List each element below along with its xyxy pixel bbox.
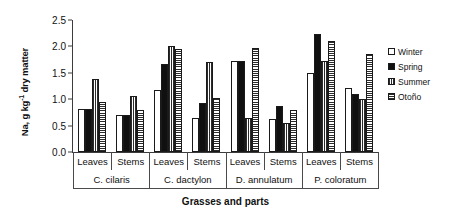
- y-axis-tick-mark: [68, 72, 72, 73]
- plot-area: 0.00.51.01.52.02.5: [72, 20, 378, 152]
- legend-item-label: Summer: [398, 77, 430, 87]
- bar: [231, 61, 238, 152]
- bar: [192, 118, 199, 152]
- bar: [199, 103, 206, 152]
- legend-item-label: Otoño: [398, 92, 421, 102]
- bar: [352, 94, 359, 152]
- x-axis-parts-band: LeavesStemsLeavesStemsLeavesStemsLeavesS…: [73, 152, 378, 170]
- bar-group: [187, 20, 225, 152]
- bar: [307, 73, 314, 152]
- bar: [314, 34, 321, 152]
- legend-item[interactable]: Summer: [388, 74, 460, 89]
- bar: [276, 106, 283, 152]
- bar: [283, 123, 290, 152]
- x-axis-part-label: Leaves: [226, 152, 265, 170]
- y-axis-label-exponent: -1: [18, 95, 25, 101]
- bar: [206, 62, 213, 152]
- bar: [92, 79, 99, 152]
- chart-legend: WinterSpringSummerOtoño: [388, 44, 460, 104]
- bar: [116, 115, 123, 152]
- bar: [213, 98, 220, 152]
- x-axis-part-label: Leaves: [302, 152, 341, 170]
- bar: [161, 64, 168, 152]
- bar-group: [73, 20, 111, 152]
- legend-swatch-icon: [388, 93, 395, 100]
- bar: [238, 61, 245, 152]
- bar: [366, 54, 373, 152]
- x-axis-label: Grasses and parts: [73, 196, 378, 207]
- bar: [99, 102, 106, 152]
- bar: [359, 99, 366, 152]
- bar: [290, 110, 297, 152]
- bar: [137, 110, 144, 152]
- y-axis-tick-mark: [68, 125, 72, 126]
- bar: [328, 41, 335, 152]
- x-axis-species-band: C. cilarisC. dactylonD. annulatumP. colo…: [73, 170, 378, 189]
- x-axis-species-label: C. cilaris: [73, 170, 150, 189]
- x-axis-species-label: D. annulatum: [226, 170, 303, 189]
- bar-group: [149, 20, 187, 152]
- legend-item[interactable]: Spring: [388, 59, 460, 74]
- bar: [168, 46, 175, 152]
- y-axis-tick-label: 2.0: [26, 41, 72, 52]
- bar: [245, 118, 252, 152]
- y-axis-tick-label: 2.5: [26, 15, 72, 26]
- bar: [252, 48, 259, 152]
- y-axis-tick-label: 1.5: [26, 67, 72, 78]
- bar-chart-figure: Na, g kg-1 dry matter 0.00.51.01.52.02.5…: [0, 0, 462, 220]
- bar-group: [111, 20, 149, 152]
- bar: [345, 88, 352, 152]
- y-axis-tick-mark: [68, 46, 72, 47]
- bar: [175, 49, 182, 152]
- bar-group: [264, 20, 302, 152]
- x-axis-species-label: P. coloratum: [302, 170, 379, 189]
- y-axis-tick-mark: [68, 152, 72, 153]
- y-axis-tick-mark: [68, 99, 72, 100]
- bar-group: [302, 20, 340, 152]
- y-axis-tick-mark: [68, 20, 72, 21]
- bar: [269, 119, 276, 152]
- bar: [85, 109, 92, 152]
- legend-swatch-icon: [388, 48, 395, 55]
- bar-groups: [73, 20, 378, 152]
- legend-item[interactable]: Otoño: [388, 89, 460, 104]
- x-axis-part-label: Stems: [111, 152, 150, 170]
- x-axis-part-label: Leaves: [149, 152, 188, 170]
- bar-group: [226, 20, 264, 152]
- bar: [130, 96, 137, 152]
- bar: [78, 109, 85, 152]
- legend-item-label: Winter: [398, 47, 423, 57]
- y-axis-tick-label: 0.0: [26, 147, 72, 158]
- x-axis-part-label: Leaves: [73, 152, 112, 170]
- x-axis-species-label: C. dactylon: [149, 170, 226, 189]
- x-axis-part-label: Stems: [187, 152, 226, 170]
- bar: [123, 115, 130, 152]
- legend-swatch-icon: [388, 63, 395, 70]
- x-axis-part-label: Stems: [340, 152, 379, 170]
- legend-item[interactable]: Winter: [388, 44, 460, 59]
- legend-item-label: Spring: [398, 62, 423, 72]
- legend-swatch-icon: [388, 78, 395, 85]
- y-axis-tick-label: 1.0: [26, 94, 72, 105]
- bar: [321, 61, 328, 152]
- y-axis-tick-label: 0.5: [26, 120, 72, 131]
- bar-group: [340, 20, 378, 152]
- x-axis-part-label: Stems: [264, 152, 303, 170]
- bar: [154, 90, 161, 152]
